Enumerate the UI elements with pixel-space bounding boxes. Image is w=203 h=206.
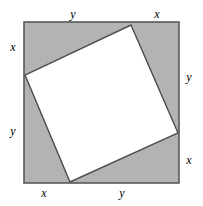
edge-label-right-upper: y <box>186 71 191 83</box>
edge-label-right-lower: x <box>186 154 191 166</box>
edge-label-left-upper: x <box>10 41 15 53</box>
edge-label-bottom-left: x <box>41 187 46 199</box>
geometry-diagram-svg <box>0 0 203 206</box>
edge-label-bottom-right: y <box>119 187 124 199</box>
edge-label-left-lower: y <box>10 125 15 137</box>
edge-label-top-right: x <box>154 8 159 20</box>
geometry-figure: y x x y y x x y <box>0 0 203 206</box>
edge-label-top-left: y <box>70 8 75 20</box>
